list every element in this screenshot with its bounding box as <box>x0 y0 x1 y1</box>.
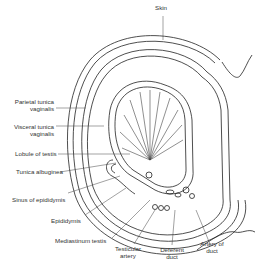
label-mediastinum-testis: Mediastinum testis <box>55 237 106 244</box>
label-sinus-of-epididymis: Sinus of epididymis <box>12 196 65 203</box>
label-line: artery <box>110 252 146 259</box>
label-testicular-artery: Testicularartery <box>110 245 146 260</box>
label-line: vaginalis <box>0 105 54 112</box>
label-line: Testicular <box>110 245 146 252</box>
label-skin: Skin <box>155 4 167 11</box>
label-parietal-tunica-vaginalis: Parietal tunicavaginalis <box>0 98 54 113</box>
label-line: duct <box>154 253 190 260</box>
label-deferent-duct: Deferentduct <box>154 246 190 261</box>
label-line: Artery of <box>194 240 230 247</box>
label-line: Visceral tunica <box>0 123 54 130</box>
label-tunica-albuginea: Tunica albuginea <box>16 168 63 175</box>
label-visceral-tunica-vaginalis: Visceral tunicavaginalis <box>0 123 54 138</box>
label-line: duct <box>194 247 230 254</box>
label-line: Deferent <box>154 246 190 253</box>
label-epididymis: Epididymis <box>51 217 81 224</box>
label-lobule-of-testis: Lobule of testis <box>15 150 57 157</box>
testis-diagram: Skin Parietal tunicavaginalis Visceral t… <box>0 0 256 269</box>
label-line: vaginalis <box>0 130 54 137</box>
label-artery-of-duct: Artery ofduct <box>194 240 230 255</box>
label-line: Parietal tunica <box>0 98 54 105</box>
